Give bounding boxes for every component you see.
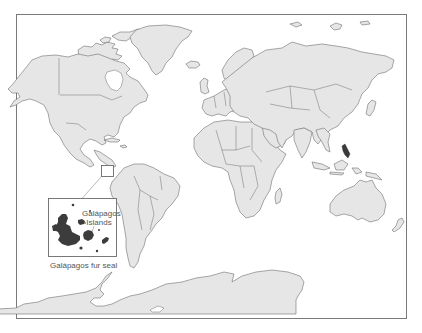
japan bbox=[366, 100, 376, 116]
greenland bbox=[130, 25, 192, 75]
philippines-range-highlight bbox=[342, 144, 350, 158]
world-map bbox=[0, 0, 422, 333]
galapagos-inset bbox=[49, 199, 117, 257]
indonesia bbox=[312, 160, 382, 180]
madagascar bbox=[275, 188, 282, 204]
great-britain bbox=[200, 78, 209, 94]
galapagos-locator-box bbox=[102, 166, 114, 177]
leader-line bbox=[82, 177, 102, 199]
north-america bbox=[8, 54, 148, 167]
inset-title-line1: Galápagos bbox=[82, 210, 116, 218]
landmasses bbox=[0, 21, 404, 314]
inset-title-line2: Islands bbox=[82, 219, 116, 227]
new-zealand bbox=[392, 218, 404, 232]
inset-caption: Galápagos fur seal bbox=[50, 262, 117, 270]
cuba bbox=[104, 138, 120, 142]
iceland bbox=[186, 61, 200, 68]
australia bbox=[330, 180, 386, 222]
india bbox=[294, 128, 312, 158]
antarctica bbox=[0, 270, 304, 314]
